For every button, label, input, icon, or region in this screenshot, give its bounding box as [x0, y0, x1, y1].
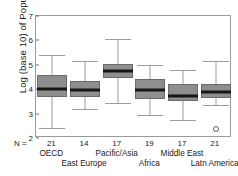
whisker-upper — [84, 61, 85, 81]
whisker-lower — [150, 99, 151, 115]
whisker-cap-upper — [39, 55, 65, 56]
boxplot-latn-america — [199, 16, 232, 136]
whisker-cap-upper — [170, 70, 196, 71]
median-line — [168, 95, 198, 98]
outlier-point — [213, 126, 219, 132]
median-line — [201, 91, 231, 94]
whisker-upper — [150, 65, 151, 80]
box-iqr — [168, 84, 198, 101]
plot-inner: 765432 — [36, 16, 230, 136]
n-count: 21 — [210, 139, 219, 148]
n-count: 14 — [80, 139, 89, 148]
whisker-cap-lower — [39, 128, 65, 129]
whisker-lower — [84, 97, 85, 109]
x-category-label: Middle East — [161, 149, 204, 158]
whisker-cap-upper — [137, 65, 163, 66]
y-tick-label: 4 — [29, 85, 36, 94]
y-tick-label: 3 — [29, 109, 36, 118]
n-count: 17 — [112, 139, 121, 148]
x-category-label: Africa — [139, 159, 160, 168]
x-category-label: East Europe — [61, 159, 106, 168]
boxplot-africa — [134, 16, 167, 136]
y-tick-mark — [36, 138, 39, 139]
whisker-cap-upper — [72, 61, 98, 62]
whisker-upper — [52, 55, 53, 75]
median-line — [70, 88, 100, 91]
whisker-cap-lower — [72, 109, 98, 110]
plot-area: 765432 — [35, 15, 231, 137]
whisker-lower — [52, 97, 53, 129]
y-tick-label: 2 — [29, 134, 36, 143]
boxplot-oecd — [36, 16, 69, 136]
boxplot-pacific-asia — [101, 16, 134, 136]
n-count: 19 — [145, 139, 154, 148]
boxplot-figure: Log (base 10) of Population 765432 N = 2… — [0, 0, 238, 176]
y-tick-label: 6 — [29, 36, 36, 45]
box-iqr — [37, 75, 67, 97]
whisker-cap-lower — [203, 105, 229, 106]
median-line — [103, 69, 133, 72]
n-count: 17 — [178, 139, 187, 148]
y-axis-title: Log (base 10) of Population — [17, 0, 28, 104]
y-tick-label: 5 — [29, 60, 36, 69]
boxplot-east-europe — [69, 16, 102, 136]
whisker-lower — [215, 98, 216, 105]
whisker-lower — [182, 101, 183, 120]
y-tick-label: 7 — [29, 12, 36, 21]
n-count: 21 — [47, 139, 56, 148]
whisker-cap-lower — [170, 120, 196, 121]
whisker-upper — [215, 61, 216, 84]
x-category-label: OECD — [40, 149, 64, 158]
n-row-label: N = — [14, 139, 27, 148]
whisker-upper — [182, 70, 183, 85]
boxplot-middle-east — [167, 16, 200, 136]
whisker-cap-upper — [203, 61, 229, 62]
whisker-upper — [117, 39, 118, 63]
median-line — [135, 89, 165, 92]
x-category-label: Latn America — [191, 159, 238, 168]
whisker-cap-lower — [137, 115, 163, 116]
x-category-label: Pacific/Asia — [95, 149, 137, 158]
whisker-cap-lower — [105, 103, 131, 104]
whisker-cap-upper — [105, 39, 131, 40]
median-line — [37, 88, 67, 91]
whisker-lower — [117, 78, 118, 102]
